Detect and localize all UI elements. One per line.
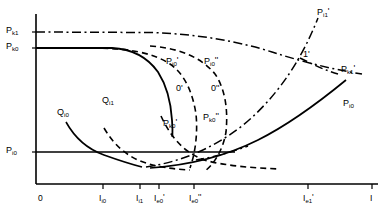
x-tick-label-origin: 0 xyxy=(38,194,43,203)
x-axis-title-main: I xyxy=(370,193,372,203)
x-tick-label-Ie0-dprime: Ie0'' xyxy=(189,194,201,203)
curve-Pi0-prime xyxy=(92,48,197,168)
curve-label-Pk0-prime-sub: k0 xyxy=(169,122,176,129)
curve-label-Pi0-right-sub: i0 xyxy=(349,102,354,109)
point-label-0-dprime: 0'' xyxy=(211,84,219,93)
x-tick-label-Ii0: Ii0 xyxy=(99,194,106,203)
x-tick-Ii1-sub: i1 xyxy=(138,198,143,204)
curve-Pk0-dprime xyxy=(146,18,318,167)
x-tick-label-Ie1-prime: Ie1' xyxy=(303,194,314,203)
x-tick-label-Ie0-prime: Ie0' xyxy=(154,194,165,203)
curve-label-Pk0-dprime-mark: '' xyxy=(216,111,219,121)
curve-label-Qi1-sub: i1 xyxy=(109,99,114,106)
point-label-0-prime: 0' xyxy=(176,84,183,93)
x-tick-label-Ii1: Ii1 xyxy=(136,194,143,203)
figure-container: Pk1 Pk0 Pi0 0 Ii0 Ii1 Ie0' Ie0'' Ie1' I … xyxy=(0,0,382,215)
y-label-Pk0-sub: k0 xyxy=(12,45,19,52)
curve-label-Pk0-dprime-sub: k0 xyxy=(209,116,216,123)
curve-label-Pk0-dprime: Pk0'' xyxy=(203,113,219,122)
curve-label-Qi0-sub: i0 xyxy=(64,111,69,118)
curve-label-Qi0: Qi0 xyxy=(57,108,69,117)
curve-label-Pi1-prime-mark: ' xyxy=(328,6,330,16)
curve-label-Qi1-main: Q xyxy=(102,95,109,105)
y-label-Pk1: Pk1 xyxy=(6,26,19,35)
curve-Pk1-prime-tail xyxy=(300,58,338,74)
curve-label-Pi0-prime-mark: ' xyxy=(177,55,179,65)
curve-label-Pk0-prime-mark: ' xyxy=(176,117,178,127)
point-label-1-prime: 1' xyxy=(303,50,310,59)
curve-Pk0-prime xyxy=(161,116,280,169)
x-tick-Ie1p-prime: ' xyxy=(312,192,314,202)
curve-Qi1 xyxy=(104,128,190,170)
curve-label-Pi0-dprime-mark: '' xyxy=(215,55,218,65)
curve-label-Pi1-prime: Pi1' xyxy=(317,8,330,17)
x-axis-title: I xyxy=(370,194,372,203)
y-label-Pi0-sub: i0 xyxy=(12,149,17,156)
curve-Pk0 xyxy=(36,48,173,137)
curve-label-Pi0-right: Pi0 xyxy=(343,99,354,108)
curve-label-Qi1: Qi1 xyxy=(102,96,114,105)
x-tick-Ii0-sub: i0 xyxy=(101,198,106,204)
curve-Pi0-right xyxy=(150,80,346,168)
curve-label-Pk0-prime: Pk0' xyxy=(163,119,177,128)
x-tick-Ie0p-prime: ' xyxy=(163,192,165,202)
x-tick-origin-main: 0 xyxy=(38,193,43,203)
curve-label-Pk1-prime: Pk1' xyxy=(341,65,355,74)
y-label-Pk0: Pk0 xyxy=(6,42,19,51)
curve-label-Qi0-main: Q xyxy=(57,107,64,117)
x-tick-Ie0pp-prime: '' xyxy=(198,192,201,202)
y-label-Pi0: Pi0 xyxy=(6,146,17,155)
curve-Pk0-dprime-tail xyxy=(196,146,248,160)
curve-label-Pi0-prime: Pi0' xyxy=(166,57,179,66)
curve-Pk1 xyxy=(36,32,362,74)
y-label-Pk1-sub: k1 xyxy=(12,29,19,36)
curve-label-Pk1-prime-mark: ' xyxy=(354,63,356,73)
curve-label-Pk1-prime-sub: k1 xyxy=(347,68,354,75)
curve-label-Pi0-dprime: Pi0'' xyxy=(204,57,218,66)
